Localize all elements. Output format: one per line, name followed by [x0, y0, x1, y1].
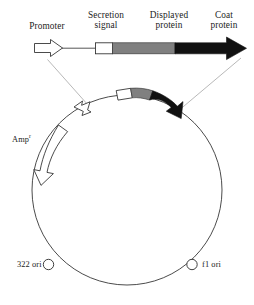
label-amp-resistance: Ampr	[12, 135, 31, 144]
label-ori-322-text: 322 ori	[17, 260, 42, 269]
label-secretion-signal-line2: signal	[73, 20, 139, 30]
linear-construct	[35, 37, 247, 60]
ori-f1-marker-icon	[187, 259, 197, 269]
plasmid-promoter-arrow-icon	[74, 101, 91, 116]
label-ori-f1-text: f1 ori	[202, 260, 221, 269]
label-coat-protein-line1: Coat	[198, 10, 250, 20]
label-displayed-protein: Displayed protein	[135, 10, 203, 30]
plasmid-displayed-protein-bar	[131, 88, 153, 100]
label-secretion-signal: Secretion signal	[73, 10, 139, 30]
leader-line-right	[181, 58, 242, 109]
promoter-arrow-icon	[35, 40, 63, 57]
label-coat-protein-line2: protein	[198, 20, 250, 30]
leader-line-left	[48, 60, 89, 106]
phagemid-vector-figure: Promoter Secretion signal Displayed prot…	[0, 0, 254, 305]
label-displayed-protein-line1: Displayed	[135, 10, 203, 20]
label-amp-resistance-text: Amp	[12, 135, 29, 144]
label-ori-f1: f1 ori	[202, 260, 221, 269]
label-coat-protein: Coat protein	[198, 10, 250, 30]
label-amp-resistance-superscript: r	[29, 133, 31, 139]
secretion-signal-box	[96, 43, 113, 54]
label-displayed-protein-line2: protein	[135, 20, 203, 30]
coat-protein-arrow	[175, 37, 247, 60]
leader-lines	[48, 58, 242, 109]
label-ori-322: 322 ori	[17, 260, 42, 269]
plasmid-secretion-signal-box	[116, 88, 132, 100]
ori-322-marker-icon	[43, 259, 53, 269]
plasmid-backbone	[32, 95, 222, 285]
displayed-protein-bar	[113, 43, 176, 54]
plasmid-circle	[32, 88, 222, 285]
label-promoter-text: Promoter	[29, 21, 64, 31]
label-secretion-signal-line1: Secretion	[73, 10, 139, 20]
plasmid-coat-protein-arrow	[150, 91, 183, 119]
